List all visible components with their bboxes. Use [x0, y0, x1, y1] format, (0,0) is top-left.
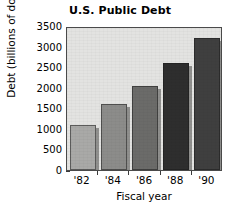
x-axis-tick-label: '84	[96, 174, 130, 186]
plot-inner	[67, 28, 221, 170]
chart-figure: U.S. Public Debt Debt (billions of dolla…	[0, 0, 240, 217]
bar	[132, 86, 158, 170]
y-axis-title: Debt (billions of dollars)	[5, 0, 17, 98]
bar-body	[70, 125, 96, 170]
x-axis-title: Fiscal year	[66, 190, 222, 202]
x-axis-tick-label: '90	[189, 174, 223, 186]
y-axis-tick-label: 3000	[26, 43, 62, 53]
bar-shadow	[127, 107, 130, 170]
y-axis-tick-label: 3500	[26, 22, 62, 32]
y-axis-tick-label: 500	[26, 145, 62, 155]
plot-area	[66, 27, 222, 171]
y-axis-tick-label: 2000	[26, 84, 62, 94]
bar-shadow	[220, 41, 222, 170]
y-axis-title-wrapper: Debt (billions of dollars)	[4, 0, 18, 108]
bar-shadow	[158, 89, 161, 170]
bar-body	[101, 104, 127, 170]
chart-title: U.S. Public Debt	[0, 4, 240, 17]
bar-body	[132, 86, 158, 170]
bar	[101, 104, 127, 170]
y-axis-tick-mark	[66, 171, 70, 172]
y-axis-tick-label: 0	[26, 166, 62, 176]
y-axis-tick-label: 2500	[26, 63, 62, 73]
x-axis-tick-label: '88	[158, 174, 192, 186]
bar	[70, 125, 96, 170]
x-axis-tick-label: '86	[127, 174, 161, 186]
bar	[163, 63, 189, 170]
bar	[194, 38, 220, 170]
x-axis-tick-label: '82	[65, 174, 99, 186]
y-axis-tick-label: 1500	[26, 104, 62, 114]
bar-shadow	[96, 128, 99, 170]
y-axis-tick-label: 1000	[26, 125, 62, 135]
bar-body	[194, 38, 220, 170]
bar-shadow	[189, 66, 192, 170]
bar-body	[163, 63, 189, 170]
